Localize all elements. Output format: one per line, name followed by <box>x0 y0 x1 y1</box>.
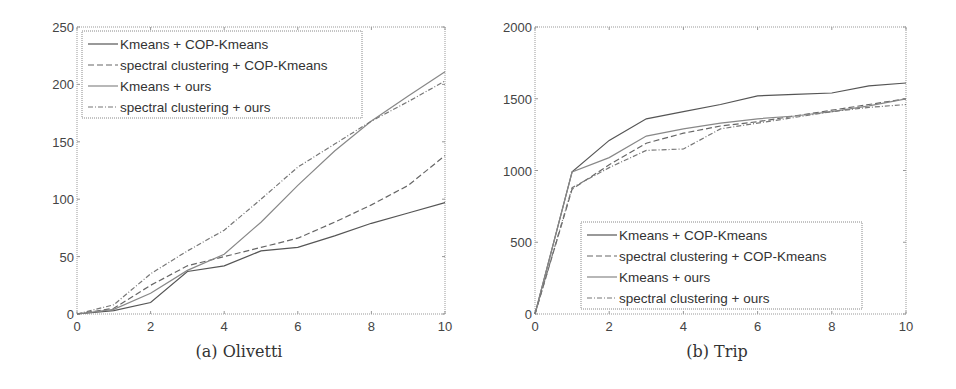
legend-label: spectral clustering + ours <box>120 100 271 115</box>
legend-label: Kmeans + COP-Kmeans <box>619 228 767 243</box>
y-tick-label: 250 <box>52 20 74 35</box>
x-tick-label: 4 <box>680 319 687 334</box>
y-tick-label: 50 <box>60 250 74 265</box>
y-tick-label: 0 <box>525 307 532 322</box>
legend-label: spectral clustering + COP-Kmeans <box>619 249 827 264</box>
y-tick-label: 1500 <box>503 92 532 107</box>
x-tick-label: 6 <box>294 319 301 334</box>
y-tick-label: 1000 <box>503 164 532 179</box>
legend-label: spectral clustering + COP-Kmeans <box>120 58 328 73</box>
x-tick-label: 0 <box>73 319 80 334</box>
caption-olivetti: (a) Olivetti <box>0 342 478 361</box>
legend-label: Kmeans + COP-Kmeans <box>120 37 268 52</box>
x-tick-label: 0 <box>531 319 538 334</box>
legend-label: Kmeans + ours <box>120 79 211 94</box>
y-tick-label: 200 <box>52 77 74 92</box>
x-tick-label: 2 <box>147 319 154 334</box>
y-tick-label: 0 <box>67 307 74 322</box>
caption-trip: (b) Trip <box>478 342 956 361</box>
figure-trip: 02468100500100015002000Kmeans + COP-Kmea… <box>478 0 956 389</box>
y-tick-label: 500 <box>510 235 532 250</box>
x-tick-label: 10 <box>899 319 913 334</box>
legend-label: spectral clustering + ours <box>619 291 770 306</box>
trip-line-chart: 02468100500100015002000Kmeans + COP-Kmea… <box>478 0 956 389</box>
x-tick-label: 8 <box>828 319 835 334</box>
x-tick-label: 4 <box>221 319 228 334</box>
x-tick-label: 10 <box>438 319 452 334</box>
figure-olivetti: 0246810050100150200250Kmeans + COP-Kmean… <box>0 0 478 389</box>
olivetti-line-chart: 0246810050100150200250Kmeans + COP-Kmean… <box>0 0 478 389</box>
legend-label: Kmeans + ours <box>619 270 710 285</box>
x-tick-label: 2 <box>606 319 613 334</box>
y-tick-label: 150 <box>52 135 74 150</box>
x-tick-label: 6 <box>754 319 761 334</box>
series-line <box>77 156 445 314</box>
y-tick-label: 2000 <box>503 20 532 35</box>
y-tick-label: 100 <box>52 192 74 207</box>
x-tick-label: 8 <box>368 319 375 334</box>
